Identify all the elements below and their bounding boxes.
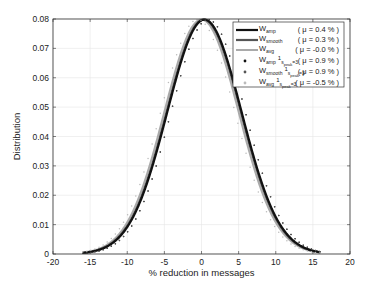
x-tick-label: -15	[84, 257, 97, 267]
y-tick-label: 0.03	[32, 161, 49, 171]
x-axis-label: % reduction in messages	[148, 267, 254, 278]
x-tick-label: -10	[121, 257, 134, 267]
y-tick-label: 0.08	[32, 14, 49, 24]
x-tick-label: 10	[271, 257, 281, 267]
legend-mu-value: ( μ = -0.0 % )	[295, 45, 339, 54]
y-tick-label: 0.07	[32, 43, 49, 53]
x-tick-label: 0	[199, 257, 204, 267]
y-tick-label: 0.01	[32, 220, 49, 230]
legend-mu-value: ( μ = 0.3 % )	[298, 35, 340, 44]
legend-mu-value: ( μ = 0.4 % )	[298, 25, 340, 34]
y-tick-label: 0.05	[32, 102, 49, 112]
y-tick-label: 0.02	[32, 190, 49, 200]
y-tick-label: 0.04	[32, 132, 49, 142]
y-tick-label: 0	[44, 249, 49, 259]
legend: Wamp( μ = 0.4 % )Wsmooth( μ = 0.3 % )Wav…	[233, 22, 344, 89]
legend-mu-value: ( μ = 0.9 % )	[298, 56, 340, 65]
x-tick-label: 20	[345, 257, 355, 267]
legend-mu-value: ( μ = 0.9 % )	[298, 67, 340, 76]
y-tick-label: 0.06	[32, 73, 49, 83]
x-tick-label: 5	[236, 257, 241, 267]
x-tick-label: 15	[308, 257, 318, 267]
legend-mu-value: ( μ = -0.5 % )	[295, 78, 339, 87]
y-axis-label: Distribution	[11, 113, 22, 161]
x-tick-label: -5	[161, 257, 169, 267]
distribution-chart: -20-15-10-505101520 00.010.020.030.040.0…	[0, 0, 371, 296]
